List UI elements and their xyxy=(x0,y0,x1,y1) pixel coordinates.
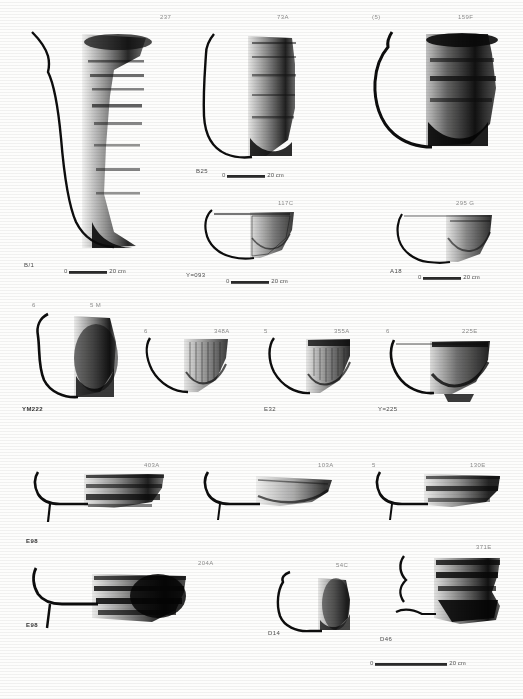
vessel-204A-context: E98 xyxy=(26,622,38,628)
vessel-130E-catalog: 130E xyxy=(470,462,486,468)
scale-zero-label: 0 xyxy=(64,268,67,274)
vessel-117C-context: Y=093 xyxy=(186,272,206,278)
vessel-371E-catalog: 371E xyxy=(476,544,492,550)
scale-zero-label: 0 xyxy=(226,278,229,284)
vessel-237-drawing xyxy=(18,26,158,266)
vessel-159F-drawing xyxy=(370,28,510,168)
vessel-130E-drawing xyxy=(370,470,516,530)
scale-unit-label: 20 cm xyxy=(463,274,479,280)
vessel-54C-context: D14 xyxy=(268,630,280,636)
vessel-5M-figure-no: 6 xyxy=(32,302,36,308)
vessel-5M-drawing xyxy=(26,312,136,404)
vessel-295G-catalog: 295 G xyxy=(456,200,474,206)
vessel-348A-drawing xyxy=(140,336,240,402)
scale-bar-117C: 0 20 cm xyxy=(226,278,288,284)
pottery-plate: 237 B/1 0 20 cm xyxy=(0,0,523,699)
vessel-204A-catalog: 204A xyxy=(198,560,214,566)
vessel-204A-drawing xyxy=(26,566,206,640)
vessel-117C-drawing xyxy=(198,208,302,270)
scale-unit-label: 20 cm xyxy=(109,268,125,274)
scale-zero-label: 0 xyxy=(370,660,373,666)
scale-bar-295G: 0 20 cm xyxy=(418,274,480,280)
vessel-103A-drawing xyxy=(200,470,350,530)
vessel-355A-catalog: 355A xyxy=(334,328,350,334)
scale-unit-label: 20 cm xyxy=(449,660,465,666)
vessel-403A-drawing xyxy=(28,470,178,532)
scale-bar-line xyxy=(69,271,107,273)
vessel-5M-context: YM222 xyxy=(22,406,43,412)
vessel-225E-drawing xyxy=(382,336,506,406)
vessel-73A-catalog: 73A xyxy=(277,14,289,20)
vessel-403A-catalog: 403A xyxy=(144,462,160,468)
scale-unit-label: 20 cm xyxy=(267,172,283,178)
vessel-117C-catalog: 117C xyxy=(278,200,294,206)
vessel-348A-figure-no: 6 xyxy=(144,328,148,334)
vessel-225E-catalog: 225E xyxy=(462,328,478,334)
vessel-355A-figure-no: 5 xyxy=(264,328,268,334)
vessel-225E-context: Y=225 xyxy=(378,406,398,412)
scale-bar-line xyxy=(423,277,461,279)
scale-zero-label: 0 xyxy=(418,274,421,280)
vessel-103A-catalog: 103A xyxy=(318,462,334,468)
vessel-130E-figure-no: 5 xyxy=(372,462,376,468)
vessel-73A-context: B25 xyxy=(196,168,208,174)
scale-bar-237: 0 20 cm xyxy=(64,268,126,274)
vessel-355A-drawing xyxy=(262,336,362,402)
vessel-54C-catalog: 54C xyxy=(336,562,348,568)
vessel-371E-drawing xyxy=(388,552,518,644)
scale-unit-label: 20 cm xyxy=(271,278,287,284)
vessel-5M-catalog: 5 M xyxy=(90,302,101,308)
scale-zero-label: 0 xyxy=(222,172,225,178)
vessel-54C-drawing xyxy=(272,570,368,638)
vessel-348A-catalog: 348A xyxy=(214,328,230,334)
vessel-225E-figure-no: 6 xyxy=(386,328,390,334)
vessel-371E-context: D46 xyxy=(380,636,392,642)
scale-bar-73A: 0 20 cm xyxy=(222,172,284,178)
vessel-295G-context: A18 xyxy=(390,268,402,274)
vessel-403A-context: E98 xyxy=(26,538,38,544)
vessel-73A-drawing xyxy=(196,30,306,170)
vessel-159F-catalog: 159F xyxy=(458,14,473,20)
scale-bar-line xyxy=(227,175,265,177)
vessel-355A-context: E32 xyxy=(264,406,276,412)
scale-bar-line xyxy=(375,663,447,665)
scale-bar-line xyxy=(231,281,269,283)
vessel-295G-drawing xyxy=(392,210,504,272)
vessel-237-catalog: 237 xyxy=(160,14,171,20)
vessel-237-context: B/1 xyxy=(24,262,34,268)
scale-bar-plate: 0 20 cm xyxy=(370,660,466,666)
vessel-159F-context: (5) xyxy=(372,14,381,20)
